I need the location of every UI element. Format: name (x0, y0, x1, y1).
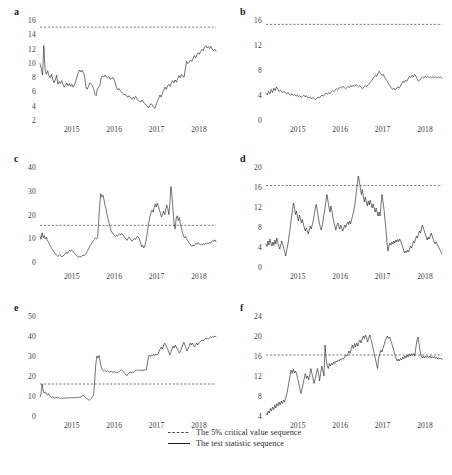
series-canvas-d (266, 167, 442, 267)
y-tick-label-e-0: 0 (32, 412, 36, 421)
panel-label-c: c (14, 153, 18, 164)
y-tick-label-c-0: 0 (32, 258, 36, 267)
x-tick-label-b-3: 2018 (417, 125, 433, 134)
y-tick-label-c-2: 20 (28, 210, 36, 219)
x-tick-label-a-3: 2018 (191, 125, 207, 134)
y-tick-label-d-1: 4 (258, 243, 262, 252)
y-tick-label-e-2: 20 (28, 372, 36, 381)
y-tick-label-a-6: 14 (28, 30, 36, 39)
y-tick-label-b-1: 4 (258, 91, 262, 100)
y-tick-label-b-0: 0 (258, 116, 262, 125)
x-tick-label-d-3: 2018 (417, 272, 433, 281)
x-tick-label-a-2: 2017 (149, 125, 165, 134)
legend-label-test-statistic: The test statistic sequence (196, 439, 284, 448)
series-canvas-f (266, 316, 442, 416)
panel-label-b: b (240, 6, 246, 17)
y-tick-label-d-5: 20 (254, 163, 262, 172)
test-statistic-line-f (266, 335, 442, 415)
y-tick-label-f-5: 24 (254, 312, 262, 321)
y-tick-label-c-3: 30 (28, 186, 36, 195)
series-canvas-a (40, 20, 216, 120)
y-tick-label-e-5: 50 (28, 312, 36, 321)
chart-panel-c: c0102030402015201620172018 (0, 147, 226, 294)
y-tick-label-a-2: 6 (32, 87, 36, 96)
y-tick-label-b-2: 8 (258, 66, 262, 75)
y-tick-label-a-5: 12 (28, 44, 36, 53)
x-tick-label-b-0: 2015 (290, 125, 306, 134)
chart-panel-e: e010203040502015201620172018 (0, 296, 226, 443)
chart-panel-b: b04812162015201620172018 (226, 0, 452, 147)
x-tick-label-c-1: 2016 (106, 272, 122, 281)
plot-area-e: 010203040502015201620172018 (40, 316, 216, 416)
test-statistic-key-icon (168, 440, 190, 447)
y-tick-label-a-7: 16 (28, 16, 36, 25)
x-tick-label-c-3: 2018 (191, 272, 207, 281)
test-statistic-line-e (40, 336, 216, 400)
series-canvas-c (40, 167, 216, 267)
panel-label-a: a (14, 6, 19, 17)
x-tick-label-c-2: 2017 (149, 272, 165, 281)
test-statistic-line-c (40, 187, 216, 258)
legend-label-critical-value: The 5% critical value sequence (196, 428, 301, 437)
plot-area-c: 0102030402015201620172018 (40, 167, 216, 267)
y-tick-label-f-3: 16 (254, 352, 262, 361)
y-tick-label-d-4: 16 (254, 183, 262, 192)
plot-area-f: 48121620242015201620172018 (266, 316, 442, 416)
x-tick-label-a-1: 2016 (106, 125, 122, 134)
panel-label-e: e (14, 302, 18, 313)
y-tick-label-d-2: 8 (258, 223, 262, 232)
y-tick-label-e-4: 40 (28, 332, 36, 341)
critical-value-key-icon (168, 429, 190, 436)
y-tick-label-e-1: 10 (28, 392, 36, 401)
chart-panel-d: d0481216202015201620172018 (226, 147, 452, 294)
x-tick-label-d-2: 2017 (375, 272, 391, 281)
series-canvas-e (40, 316, 216, 416)
test-statistic-line-b (266, 71, 442, 99)
y-tick-label-f-0: 4 (258, 412, 262, 421)
panel-label-d: d (240, 153, 246, 164)
legend-item-test-statistic: The test statistic sequence (0, 439, 452, 448)
y-tick-label-a-3: 8 (32, 73, 36, 82)
y-tick-label-b-4: 16 (254, 16, 262, 25)
y-tick-label-a-1: 4 (32, 101, 36, 110)
y-tick-label-f-1: 8 (258, 392, 262, 401)
y-tick-label-f-2: 12 (254, 372, 262, 381)
y-tick-label-a-4: 10 (28, 58, 36, 67)
x-tick-label-d-0: 2015 (290, 272, 306, 281)
x-tick-label-d-1: 2016 (332, 272, 348, 281)
plot-area-d: 0481216202015201620172018 (266, 167, 442, 267)
y-tick-label-e-3: 30 (28, 352, 36, 361)
series-canvas-b (266, 20, 442, 120)
x-tick-label-b-2: 2017 (375, 125, 391, 134)
panel-label-f: f (240, 302, 243, 313)
figure-legend: The 5% critical value sequence The test … (0, 428, 452, 450)
plot-area-a: 2468101214162015201620172018 (40, 20, 216, 120)
x-tick-label-c-0: 2015 (64, 272, 80, 281)
figure-panel-grid: a2468101214162015201620172018b0481216201… (0, 0, 452, 475)
test-statistic-line-a (40, 46, 216, 109)
y-tick-label-b-3: 12 (254, 41, 262, 50)
x-tick-label-a-0: 2015 (64, 125, 80, 134)
legend-item-critical-value: The 5% critical value sequence (0, 428, 452, 437)
x-tick-label-b-1: 2016 (332, 125, 348, 134)
y-tick-label-d-0: 0 (258, 263, 262, 272)
y-tick-label-a-0: 2 (32, 116, 36, 125)
test-statistic-line-d (266, 176, 442, 256)
chart-panel-a: a2468101214162015201620172018 (0, 0, 226, 147)
y-tick-label-d-3: 12 (254, 203, 262, 212)
chart-panel-f: f48121620242015201620172018 (226, 296, 452, 443)
y-tick-label-f-4: 20 (254, 332, 262, 341)
y-tick-label-c-4: 40 (28, 163, 36, 172)
plot-area-b: 04812162015201620172018 (266, 20, 442, 120)
y-tick-label-c-1: 10 (28, 234, 36, 243)
